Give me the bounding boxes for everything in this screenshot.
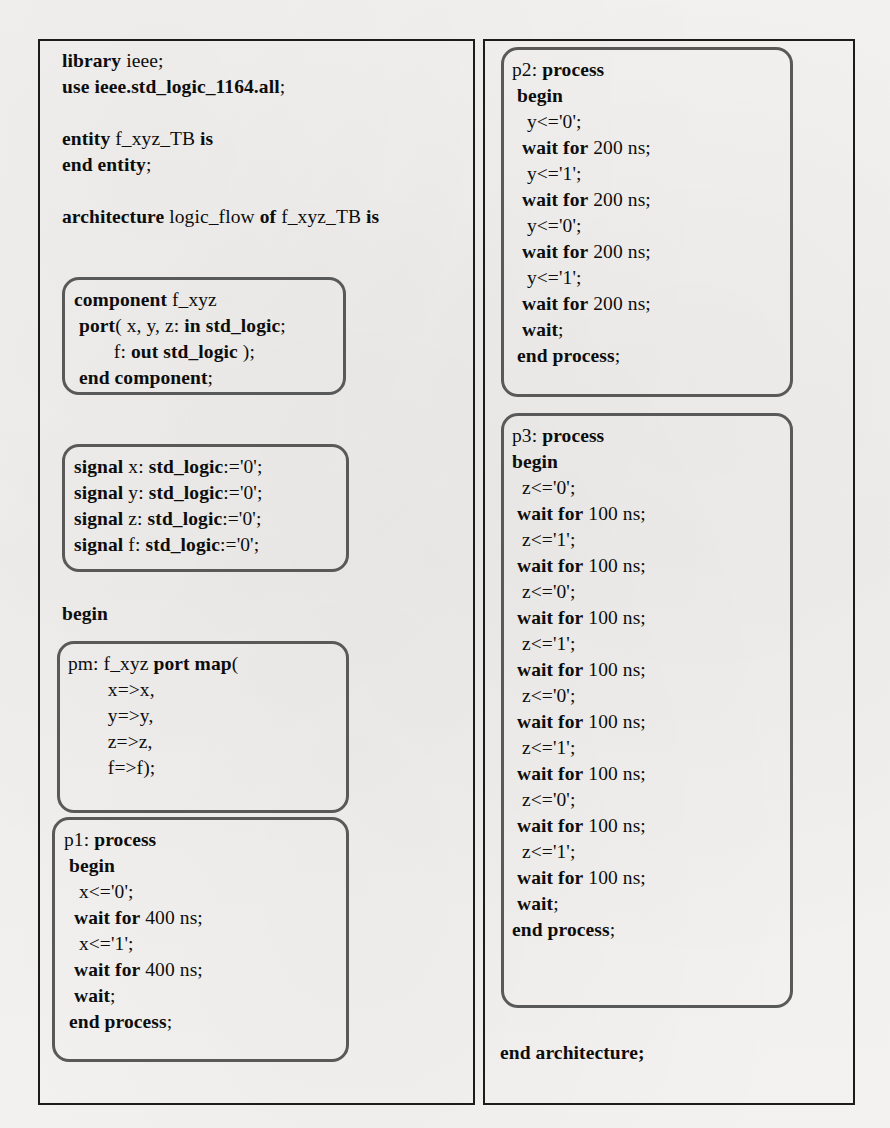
process-p2-code: p2: process begin y<='0'; wait for 200 n… bbox=[512, 57, 651, 369]
end-architecture-keyword: end architecture; bbox=[500, 1040, 644, 1066]
architecture-begin-keyword: begin bbox=[62, 601, 108, 627]
port-map-code: pm: f_xyz port map( x=>x, y=>y, z=>z, f=… bbox=[68, 651, 238, 781]
process-p3-code: p3: process begin z<='0'; wait for 100 n… bbox=[512, 423, 646, 943]
scanned-page: library ieee; use ieee.std_logic_1164.al… bbox=[0, 0, 890, 1128]
process-p1-code: p1: process begin x<='0'; wait for 400 n… bbox=[64, 827, 203, 1035]
component-declaration-code: component f_xyz port( x, y, z: in std_lo… bbox=[74, 287, 286, 391]
library-entity-architecture-header: library ieee; use ieee.std_logic_1164.al… bbox=[62, 48, 379, 230]
signal-declarations-code: signal x: std_logic:='0'; signal y: std_… bbox=[74, 454, 263, 558]
